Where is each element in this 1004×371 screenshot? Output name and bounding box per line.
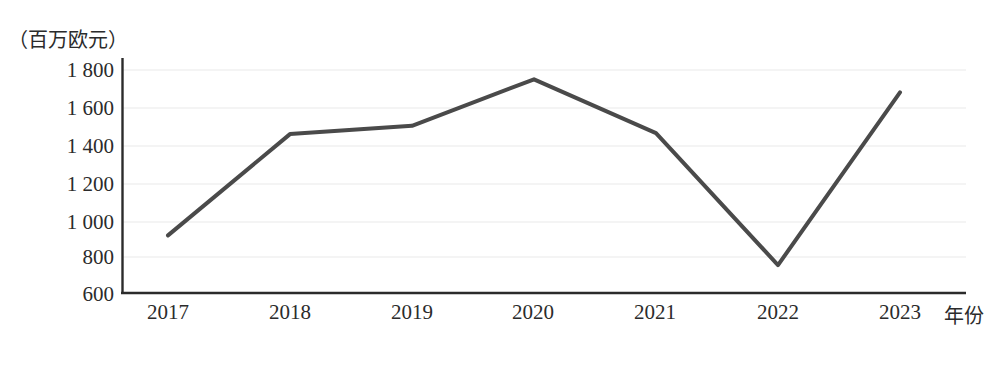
gridlines: [122, 70, 966, 257]
x-axis-title: 年份: [944, 300, 984, 329]
x-tick-label-2022: 2022: [757, 300, 799, 325]
x-tick-label-2017: 2017: [147, 300, 189, 325]
x-tick-label-2021: 2021: [634, 300, 676, 325]
x-tick-label-2019: 2019: [391, 300, 433, 325]
line-chart: （百万欧元） 1 800 1 600 1 400 1 200 1 000 800…: [0, 0, 1004, 371]
x-tick-label-2018: 2018: [269, 300, 311, 325]
x-tick-label-2020: 2020: [512, 300, 554, 325]
data-line: [168, 79, 900, 265]
x-tick-label-2023: 2023: [879, 300, 921, 325]
